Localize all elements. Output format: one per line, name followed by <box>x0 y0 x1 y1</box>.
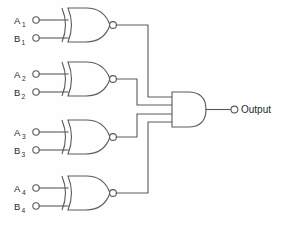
pin-label-b3-sub: 3 <box>22 151 26 158</box>
inversion-bubble-2 <box>110 76 117 83</box>
pin-label-a3-text: A <box>14 127 21 138</box>
pin-label-b4: B 4 <box>14 201 26 214</box>
pin-label-a2: A 2 <box>14 69 26 82</box>
gate-and-output <box>172 92 238 127</box>
wire-xnor1-to-and <box>116 25 172 97</box>
input-terminal-b4[interactable] <box>33 203 39 209</box>
input-terminal-b2[interactable] <box>33 89 39 95</box>
pin-label-a3: A 3 <box>14 127 26 140</box>
xor-arc-2 <box>62 62 66 96</box>
pin-label-b1: B 1 <box>14 33 26 46</box>
wire-xnor2-to-and <box>116 79 172 105</box>
input-terminal-a1[interactable] <box>33 17 39 23</box>
gate-xnor1 <box>33 8 117 42</box>
xor-arc-1 <box>62 8 66 42</box>
xor-arc-3 <box>62 120 66 154</box>
xnor-body-4 <box>68 176 110 210</box>
inversion-bubble-4 <box>110 190 117 197</box>
xnor-body-2 <box>68 62 110 96</box>
wire-xnor3-to-and <box>116 114 172 137</box>
wire-xnor4-to-and <box>116 122 172 193</box>
input-terminal-a2[interactable] <box>33 71 39 77</box>
pin-label-b3-text: B <box>14 145 20 156</box>
xnor-body-1 <box>68 8 110 42</box>
input-terminal-a4[interactable] <box>33 185 39 191</box>
pin-label-b2-text: B <box>14 87 20 98</box>
pin-label-a2-sub: 2 <box>22 75 26 82</box>
pin-label-a3-sub: 3 <box>22 133 26 140</box>
pin-label-b3: B 3 <box>14 145 26 158</box>
input-terminal-b3[interactable] <box>33 147 39 153</box>
input-terminal-a3[interactable] <box>33 129 39 135</box>
pin-label-a1-text: A <box>14 15 21 26</box>
xnor-body-3 <box>68 120 110 154</box>
pin-label-a4-sub: 4 <box>22 189 26 196</box>
pin-label-a2-text: A <box>14 69 21 80</box>
gate-xnor3 <box>33 120 117 154</box>
pin-label-a4: A 4 <box>14 183 26 196</box>
pin-label-a1-sub: 1 <box>22 21 26 28</box>
pin-label-a1: A 1 <box>14 15 26 28</box>
pin-label-b2: B 2 <box>14 87 26 100</box>
gate-xnor4 <box>33 176 117 210</box>
input-terminal-b1[interactable] <box>33 35 39 41</box>
pin-label-b1-sub: 1 <box>22 39 26 46</box>
output-label: Output <box>241 104 271 115</box>
pin-label-b4-text: B <box>14 201 20 212</box>
circuit-diagram: A 1 B 1 A 2 B 2 A 3 B 3 A 4 B 4 <box>0 0 289 227</box>
pin-label-b1-text: B <box>14 33 20 44</box>
circuit-svg: A 1 B 1 A 2 B 2 A 3 B 3 A 4 B 4 <box>0 0 289 227</box>
pin-label-a4-text: A <box>14 183 21 194</box>
inversion-bubble-1 <box>110 22 117 29</box>
inversion-bubble-3 <box>110 134 117 141</box>
pin-label-b4-sub: 4 <box>22 207 26 214</box>
gate-xnor2 <box>33 62 117 96</box>
xor-arc-4 <box>62 176 66 210</box>
output-terminal[interactable] <box>231 106 238 113</box>
pin-label-b2-sub: 2 <box>22 93 26 100</box>
and-body <box>172 92 206 127</box>
